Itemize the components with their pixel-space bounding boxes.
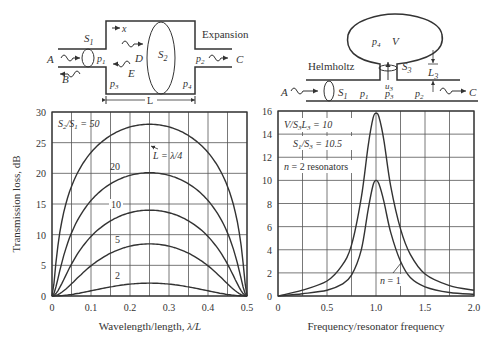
left-chart: 00.10.20.30.40.5051015202530 Transmissio… — [10, 107, 253, 332]
x-tick-label: 2.0 — [468, 302, 481, 313]
x-tick-label: 0.3 — [163, 302, 176, 313]
wave-a-icon — [61, 55, 80, 61]
x-tick-label: 0 — [276, 302, 281, 313]
y-tick-label: 0 — [41, 291, 46, 302]
svg-text:V: V — [392, 35, 400, 47]
svg-text:p1: p1 — [359, 88, 369, 101]
svg-text:L3: L3 — [427, 66, 438, 81]
y-tick-label: 14 — [262, 129, 272, 140]
y-tick-label: 12 — [262, 152, 272, 163]
svg-text:Expansion: Expansion — [202, 28, 249, 40]
y-tick-label: 16 — [262, 106, 272, 117]
x-tick-label: 1.0 — [370, 302, 383, 313]
svg-text:p2: p2 — [414, 88, 424, 101]
x-tick-label: 0.5 — [321, 302, 334, 313]
left-x-label: Wavelength/length, λ/L — [99, 320, 201, 332]
x-tick-label: 1.5 — [419, 302, 432, 313]
svg-text:L: L — [147, 95, 153, 106]
annotation-ratio: S2/S1 = 50 — [58, 118, 100, 131]
x-tick-label: 0.4 — [202, 302, 215, 313]
y-tick-label: 2 — [267, 268, 272, 279]
wave-d-icon — [122, 41, 143, 47]
label-10: 10 — [111, 199, 121, 210]
y-tick-label: 10 — [262, 175, 272, 186]
label-20: 20 — [110, 161, 120, 172]
svg-text:B: B — [62, 73, 69, 85]
right-chart: 00.51.01.52.00246810121416 Frequency/res… — [262, 106, 480, 332]
x-tick-label: 0.1 — [85, 302, 98, 313]
label-5: 5 — [115, 234, 120, 245]
svg-text:p1: p1 — [96, 53, 106, 66]
y-tick-label: 30 — [36, 107, 46, 118]
x-tick-label: 0.2 — [124, 302, 137, 313]
x-tick-label: 0 — [50, 302, 55, 313]
y-tick-label: 15 — [36, 199, 46, 210]
svg-text:A: A — [280, 86, 288, 98]
svg-text:D: D — [134, 52, 143, 64]
y-tick-label: 8 — [267, 199, 272, 210]
svg-text:A: A — [46, 53, 54, 65]
y-tick-label: 6 — [267, 222, 272, 233]
svg-text:p4: p4 — [371, 36, 381, 49]
svg-text:x: x — [121, 23, 127, 34]
y-tick-label: 4 — [267, 245, 272, 256]
wave-c-icon — [209, 55, 228, 61]
svg-text:C: C — [236, 53, 244, 65]
y-tick-label: 20 — [36, 168, 46, 179]
svg-text:S1: S1 — [84, 32, 94, 47]
left-grid — [52, 112, 247, 296]
svg-text:p2: p2 — [195, 53, 205, 66]
svg-text:p4: p4 — [182, 78, 192, 91]
svg-text:S1: S1 — [338, 86, 348, 101]
svg-text:Helmholtz: Helmholtz — [308, 60, 355, 72]
left-y-label: Transmission loss, dB — [10, 155, 22, 252]
wave-a-icon — [291, 88, 318, 94]
y-tick-label: 10 — [36, 230, 46, 241]
label-2: 2 — [115, 270, 120, 281]
annotation-quarter-wave: L = λ/4 — [152, 150, 182, 161]
svg-text:S2: S2 — [158, 48, 168, 63]
svg-text:C: C — [469, 86, 477, 98]
y-tick-label: 5 — [41, 260, 46, 271]
y-tick-label: 25 — [36, 138, 46, 149]
annotation-n2: n = 2 resonators — [284, 161, 348, 172]
svg-text:E: E — [127, 67, 135, 79]
y-tick-label: 0 — [267, 291, 272, 302]
wave-c-icon — [440, 88, 466, 94]
x-tick-label: 0.5 — [241, 302, 254, 313]
figure: Expansion A B C D E x S1 S2 p1 p2 p3 p4 … — [0, 0, 499, 345]
right-x-label: Frequency/resonator frequency — [307, 320, 445, 332]
annotation-n1: n = 1 — [380, 275, 401, 286]
svg-text:p3: p3 — [109, 78, 119, 91]
